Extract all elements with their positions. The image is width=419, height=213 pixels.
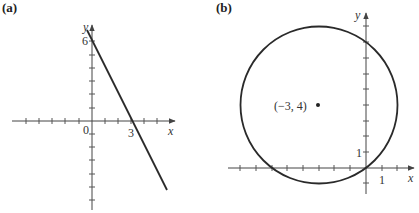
x-tick-label-3: 3 <box>128 126 134 140</box>
origin-label: 0 <box>83 123 89 137</box>
panel-a: (a) <box>2 0 175 210</box>
center-point <box>316 103 320 107</box>
line-y-equals-6-minus-2x <box>87 30 167 190</box>
x-axis-label: x <box>167 124 174 138</box>
panel-b: (b) (−3, 4) <box>216 0 414 194</box>
panel-b-label: (b) <box>216 0 232 15</box>
x-axis-label: x <box>407 171 414 185</box>
y-axis-label: y <box>354 8 361 22</box>
center-point-label: (−3, 4) <box>274 99 307 113</box>
x-tick-label-1: 1 <box>379 173 385 187</box>
y-tick-label-6: 6 <box>82 34 88 48</box>
y-tick-label-1: 1 <box>356 146 362 160</box>
panel-a-label: (a) <box>2 0 17 15</box>
figure: (a) <box>0 0 419 213</box>
y-axis-label: y <box>82 20 89 34</box>
